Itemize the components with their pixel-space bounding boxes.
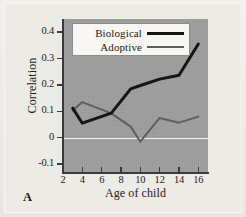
x-tick-label: 6 [94, 174, 110, 185]
legend-item-biological: Biological [78, 26, 184, 40]
x-tick [82, 167, 84, 172]
legend-swatch-biological [147, 32, 184, 35]
x-tick-label: 12 [152, 174, 168, 185]
x-tick [159, 167, 161, 172]
x-tick [62, 167, 64, 172]
y-tick-label: 0 [49, 131, 54, 142]
y-axis-line [62, 19, 64, 173]
y-tick [57, 31, 62, 33]
x-tick-label: 14 [171, 174, 187, 185]
y-tick-label: 0.3 [41, 52, 54, 63]
legend-label-adoptive: Adoptive [100, 41, 142, 53]
series-line-adoptive [73, 102, 199, 142]
x-axis-title: Age of child [63, 186, 208, 201]
y-tick-label: 0.4 [41, 25, 54, 36]
legend-swatch-adoptive [147, 46, 184, 48]
y-tick [57, 163, 62, 165]
panel-label: A [23, 190, 32, 205]
legend-label-biological: Biological [95, 27, 142, 39]
chart-legend: Biological Adoptive [72, 23, 190, 56]
legend-item-adoptive: Adoptive [78, 40, 184, 54]
y-tick [57, 58, 62, 60]
x-tick [101, 167, 103, 172]
y-tick-label: -0.1 [38, 157, 54, 168]
x-tick-label: 2 [55, 174, 71, 185]
y-axis-title: Correlation [25, 31, 40, 141]
y-tick [57, 137, 62, 139]
x-tick-label: 4 [74, 174, 90, 185]
x-tick [178, 167, 180, 172]
y-tick-label: 0.1 [41, 104, 54, 115]
x-tick [198, 167, 200, 172]
x-tick [120, 167, 122, 172]
figure-panel-a: 0.40.30.20.10-0.1 246810121416 Correlati… [0, 0, 246, 217]
x-tick-label: 10 [132, 174, 148, 185]
y-tick [57, 84, 62, 86]
x-tick-label: 16 [190, 174, 206, 185]
y-tick-label: 0.2 [41, 78, 54, 89]
x-tick [140, 167, 142, 172]
y-tick [57, 111, 62, 113]
x-tick-label: 8 [113, 174, 129, 185]
